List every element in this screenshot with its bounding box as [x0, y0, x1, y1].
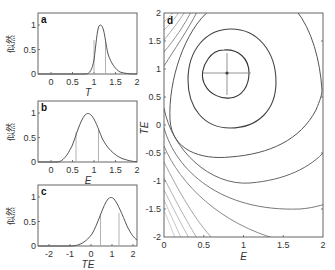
x-tick: 1.5: [277, 240, 290, 250]
y-tick: 1: [31, 20, 36, 30]
y-tick: 0.5: [23, 133, 36, 143]
x-axis-label: E: [240, 251, 247, 262]
x-axis-label: E: [85, 175, 92, 186]
x-tick: 0: [88, 249, 93, 259]
x-tick: 2: [134, 77, 139, 87]
y-tick: 0: [31, 241, 36, 251]
figure: a 0 0.5 1 1.5 2 0 0.5 1 T 似然 b 0 0.5 1 1…: [0, 0, 335, 270]
panel-a-frame: [38, 13, 137, 74]
x-tick: 0.5: [66, 77, 79, 87]
x-tick: 1.5: [109, 77, 122, 87]
likelihood-curve: [38, 198, 137, 247]
y-tick: 1: [156, 64, 161, 74]
y-tick: 0: [156, 120, 161, 130]
y-tick: 0: [31, 69, 36, 79]
x-tick: 0: [48, 165, 53, 175]
y-tick: -0.5: [145, 148, 161, 158]
panel-d-label: d: [167, 15, 173, 26]
y-axis-label: TE: [139, 121, 150, 134]
panel-c-label: c: [41, 186, 47, 197]
y-tick: 0: [31, 157, 36, 167]
likelihood-curve: [38, 25, 137, 74]
y-tick: 2: [156, 8, 161, 18]
y-axis-label: 似然: [5, 35, 16, 53]
y-tick: 1: [31, 192, 36, 202]
panel-d: d 0 0.5 1 1.5 2 -2 -1.5 -1 -0.5 0 0.5 1 …: [139, 8, 326, 262]
y-tick: -2: [153, 232, 161, 242]
x-tick: 1: [241, 240, 246, 250]
x-tick: 2: [134, 165, 139, 175]
x-tick: 2: [130, 249, 135, 259]
x-tick: 0.5: [66, 165, 79, 175]
panel-b-frame: [38, 101, 137, 162]
x-tick: 1: [109, 249, 114, 259]
y-tick: 0.5: [23, 45, 36, 55]
x-tick: 1.5: [109, 165, 122, 175]
x-tick: 0: [161, 240, 166, 250]
y-tick: -1.5: [145, 204, 161, 214]
x-tick: 0.5: [197, 240, 210, 250]
x-tick: 2: [320, 240, 325, 250]
y-axis-label: 似然: [5, 123, 16, 141]
x-tick: 1: [91, 77, 96, 87]
y-axis-label: 似然: [5, 207, 16, 225]
y-tick: 1.5: [148, 36, 161, 46]
y-tick: 0.5: [148, 92, 161, 102]
likelihood-curve: [38, 114, 137, 163]
x-tick: 0: [48, 77, 53, 87]
panel-c: c -2 -1 0 1 2 0 0.5 1 TE 似然: [5, 185, 137, 270]
x-axis-label: TE: [82, 259, 95, 270]
x-tick: -2: [45, 249, 53, 259]
x-axis-label: T: [85, 87, 92, 98]
panel-b: b 0 0.5 1 1.5 2 0 0.5 1 E 似然: [5, 101, 140, 186]
panel-a-label: a: [41, 14, 47, 25]
panel-a: a 0 0.5 1 1.5 2 0 0.5 1 T 似然: [5, 13, 140, 98]
panel-b-label: b: [41, 102, 47, 113]
contour-lines: [164, 10, 326, 240]
maximum-point: [225, 71, 228, 74]
y-tick: 1: [31, 108, 36, 118]
x-tick: -1: [66, 249, 74, 259]
y-tick: 0.5: [23, 217, 36, 227]
panel-d-frame: [164, 13, 323, 237]
y-tick: -1: [153, 176, 161, 186]
x-tick: 1: [91, 165, 96, 175]
